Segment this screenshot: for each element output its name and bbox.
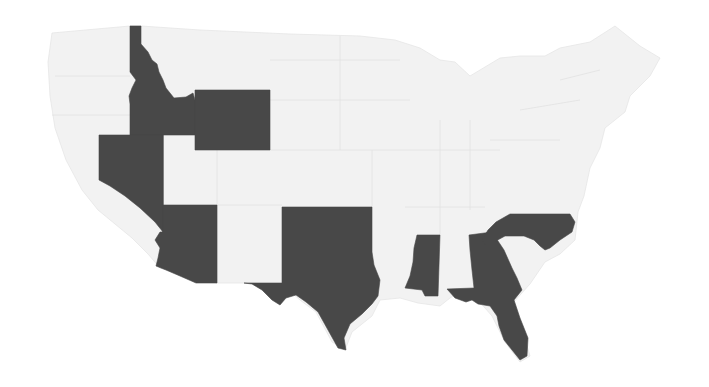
state-wyoming[interactable] [195,90,270,150]
us-map [0,0,709,387]
